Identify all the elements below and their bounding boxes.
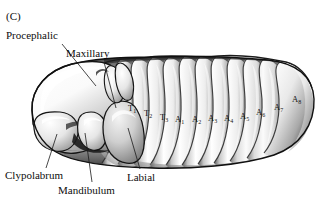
segment-index: 2	[198, 119, 201, 125]
label-labial: Labial	[127, 172, 155, 183]
segment-index: 2	[149, 113, 152, 119]
segment-label-a4: A4	[224, 114, 233, 123]
segment-label-t3: T3	[160, 113, 168, 122]
segment-index: 4	[230, 118, 233, 124]
segment-label-a7: A7	[274, 103, 283, 112]
segment-index: 5	[246, 116, 249, 122]
segment-label-a6: A6	[256, 108, 265, 117]
panel-label: (C)	[6, 11, 21, 22]
figure-panel-c: (C) ProcephalicMaxillaryClypolabrumMandi…	[0, 0, 330, 204]
segment-label-a8: A8	[292, 95, 301, 104]
segment-label-a1: A1	[175, 115, 184, 124]
segment-label-t1: T1	[128, 104, 136, 113]
segment-index: 3	[165, 117, 168, 123]
label-maxillary: Maxillary	[66, 48, 109, 59]
segment-index: 1	[181, 119, 184, 125]
segment-index: 7	[280, 107, 283, 113]
label-clypolabrum: Clypolabrum	[5, 170, 63, 181]
segment-label-t2: T2	[144, 109, 152, 118]
segment-index: 3	[214, 118, 217, 124]
segment-label-a3: A3	[208, 114, 217, 123]
segment-index: 6	[262, 112, 265, 118]
segment-index: 8	[298, 99, 301, 105]
segment-label-a2: A2	[192, 115, 201, 124]
segment-index: 1	[133, 108, 136, 114]
label-procephalic: Procephalic	[6, 30, 58, 41]
segment-label-a5: A5	[240, 112, 249, 121]
clypolabrum-lobe	[34, 112, 78, 151]
label-mandibulum: Mandibulum	[58, 185, 115, 196]
